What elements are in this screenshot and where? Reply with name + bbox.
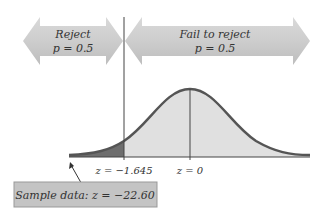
- reject-p-label: p = 0.5: [53, 42, 94, 55]
- critical-value-label: z = −1.645: [94, 165, 152, 176]
- reject-label: Reject: [54, 28, 91, 41]
- fail-to-reject-p-label: p = 0.5: [195, 42, 236, 55]
- fail-to-reject-label: Fail to reject: [179, 28, 251, 41]
- sample-data-label: Sample data: z = −22.60: [15, 189, 155, 202]
- pointer-arrowhead-icon: [69, 162, 74, 169]
- fail-to-reject-region-arrow: [125, 17, 310, 65]
- center-value-label: z = 0: [176, 165, 204, 176]
- reject-region-arrow: [23, 17, 123, 65]
- hypothesis-test-diagram: Reject p = 0.5 Fail to reject p = 0.5 z …: [0, 0, 328, 221]
